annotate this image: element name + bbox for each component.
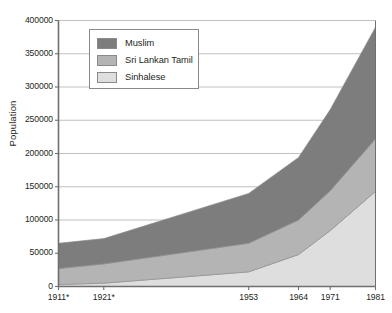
x-tick-label: 1921*: [93, 292, 115, 302]
legend-item-muslim: Muslim: [97, 35, 198, 51]
legend-swatch-muslim: [97, 38, 117, 49]
legend-label-muslim: Muslim: [125, 38, 154, 48]
legend-item-sinhalese: Sinhalese: [97, 69, 198, 85]
legend-swatch-sinhalese: [97, 72, 117, 83]
population-area-chart: 0500001000001500002000002500003000003500…: [0, 0, 392, 313]
x-tick-label: 1953: [239, 292, 258, 302]
y-axis-title: Population: [7, 84, 18, 164]
x-tick-label: 1971: [321, 292, 340, 302]
chart-legend: Muslim Sri Lankan Tamil Sinhalese: [89, 29, 199, 89]
x-tick-label: 1981: [366, 292, 385, 302]
x-tick-label: 1964: [289, 292, 308, 302]
legend-label-sinhalese: Sinhalese: [125, 72, 165, 82]
legend-label-sri-lankan-tamil: Sri Lankan Tamil: [125, 55, 193, 65]
x-tick-label: 1911*: [48, 292, 69, 302]
legend-swatch-sri-lankan-tamil: [97, 55, 117, 66]
legend-item-sri-lankan-tamil: Sri Lankan Tamil: [97, 52, 198, 68]
